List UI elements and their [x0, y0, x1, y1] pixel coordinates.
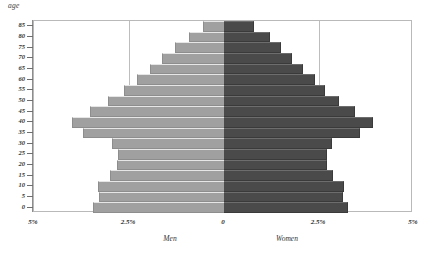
bar-women	[224, 74, 315, 85]
bar-women	[224, 85, 325, 96]
y-axis-tick-label: 20	[3, 160, 25, 167]
bar-women	[224, 170, 333, 181]
y-axis-tick-label: 10	[3, 181, 25, 188]
bar-men	[72, 117, 224, 128]
y-axis-tick-label: 60	[3, 75, 25, 82]
bar-women	[224, 32, 270, 43]
bar-women	[224, 149, 327, 160]
y-axis-tick-label: 25	[3, 149, 25, 156]
pyramid-row	[34, 170, 411, 181]
y-axis-tick-label: 75	[3, 43, 25, 50]
bar-men	[150, 64, 224, 75]
y-axis-tick-label: 5	[3, 192, 25, 199]
x-axis-tick-label: 0	[221, 218, 225, 226]
y-axis-tick-label: 45	[3, 107, 25, 114]
pyramid-row	[34, 85, 411, 96]
bar-men	[189, 32, 224, 43]
bar-men	[99, 192, 224, 203]
series-label-men: Men	[163, 234, 176, 243]
pyramid-row	[34, 117, 411, 128]
pyramid-row	[34, 192, 411, 203]
bar-women	[224, 106, 355, 117]
population-pyramid-chart: age 8580757065605550454035302520151050 5…	[0, 0, 440, 258]
pyramid-row	[34, 202, 411, 213]
pyramid-row	[34, 53, 411, 64]
y-axis-tick-label: 70	[3, 53, 25, 60]
pyramid-row	[34, 64, 411, 75]
bar-men	[162, 53, 224, 64]
pyramid-row	[34, 149, 411, 160]
bar-men	[83, 128, 224, 139]
series-label-women: Women	[276, 234, 298, 243]
bar-women	[224, 192, 343, 203]
pyramid-row	[34, 42, 411, 53]
bar-men	[110, 170, 224, 181]
y-axis-tick-label: 65	[3, 64, 25, 71]
bar-men	[112, 138, 224, 149]
pyramid-row	[34, 21, 411, 32]
y-axis-tick-label: 35	[3, 128, 25, 135]
y-axis-tick-label: 40	[3, 117, 25, 124]
bar-men	[118, 149, 224, 160]
y-axis-title: age	[8, 1, 19, 10]
x-axis-tick-label: 5%	[28, 218, 37, 226]
bar-women	[224, 160, 327, 171]
bar-women	[224, 128, 360, 139]
pyramid-row	[34, 138, 411, 149]
bar-men	[98, 181, 224, 192]
pyramid-row	[34, 160, 411, 171]
plot-area	[33, 20, 412, 212]
y-axis-tick-label: 85	[3, 21, 25, 28]
y-axis-tick-label: 15	[3, 171, 25, 178]
bar-men	[203, 21, 224, 32]
bar-women	[224, 96, 339, 107]
bar-men	[93, 202, 224, 213]
bar-men	[175, 42, 224, 53]
y-axis-tick-label: 0	[3, 203, 25, 210]
x-axis-tick-label: 2.5%	[121, 218, 136, 226]
bar-women	[224, 21, 254, 32]
bar-men	[124, 85, 224, 96]
bar-women	[224, 117, 373, 128]
bar-women	[224, 181, 344, 192]
bar-men	[117, 160, 224, 171]
pyramid-row	[34, 74, 411, 85]
bar-women	[224, 202, 348, 213]
pyramid-row	[34, 128, 411, 139]
y-axis-tick-label: 55	[3, 85, 25, 92]
bar-women	[224, 64, 303, 75]
bar-men	[137, 74, 224, 85]
bar-men	[108, 96, 224, 107]
bar-women	[224, 42, 281, 53]
bar-men	[90, 106, 224, 117]
y-axis-tick-label: 50	[3, 96, 25, 103]
bar-women	[224, 138, 332, 149]
pyramid-row	[34, 181, 411, 192]
x-axis-tick-label: 2.5%	[311, 218, 326, 226]
pyramid-row	[34, 96, 411, 107]
pyramid-row	[34, 106, 411, 117]
bar-women	[224, 53, 292, 64]
y-axis-tick-label: 30	[3, 139, 25, 146]
pyramid-row	[34, 32, 411, 43]
y-axis-tick-label: 80	[3, 32, 25, 39]
x-axis-tick-label: 5%	[408, 218, 417, 226]
